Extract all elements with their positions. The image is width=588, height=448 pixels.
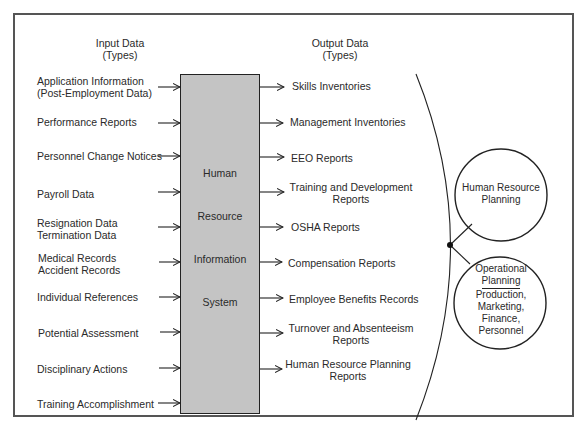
operational-area: Personnel bbox=[455, 325, 547, 337]
operational-area: Finance, bbox=[455, 313, 547, 325]
hr-planning-label: Human Resource Planning bbox=[455, 182, 547, 206]
branch-line bbox=[450, 245, 470, 264]
hr-planning-line: Human Resource bbox=[455, 182, 547, 194]
junction-dot-icon bbox=[447, 242, 453, 248]
operational-title: Planning bbox=[482, 275, 521, 289]
operational-planning-label: Operational Planning Production, Marketi… bbox=[455, 263, 547, 337]
connector-lines bbox=[0, 0, 588, 448]
hr-planning-line: Planning bbox=[455, 194, 547, 206]
operational-area: Marketing, bbox=[455, 301, 547, 313]
operational-title: Operational bbox=[455, 263, 547, 275]
operational-area: Production, bbox=[455, 289, 547, 301]
boundary-curve bbox=[416, 74, 451, 420]
